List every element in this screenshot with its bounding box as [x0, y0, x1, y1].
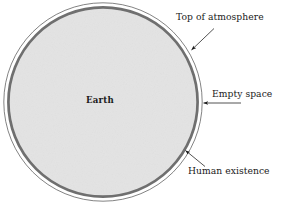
diagram-canvas: Top of atmosphere Empty space Human exis…	[0, 0, 289, 205]
label-earth: Earth	[86, 96, 114, 105]
label-empty-space: Empty space	[212, 89, 272, 98]
label-human-existence: Human existence	[188, 166, 270, 175]
label-top-of-atmosphere: Top of atmosphere	[176, 12, 264, 21]
leader-line-top-of-atmosphere	[192, 29, 215, 51]
